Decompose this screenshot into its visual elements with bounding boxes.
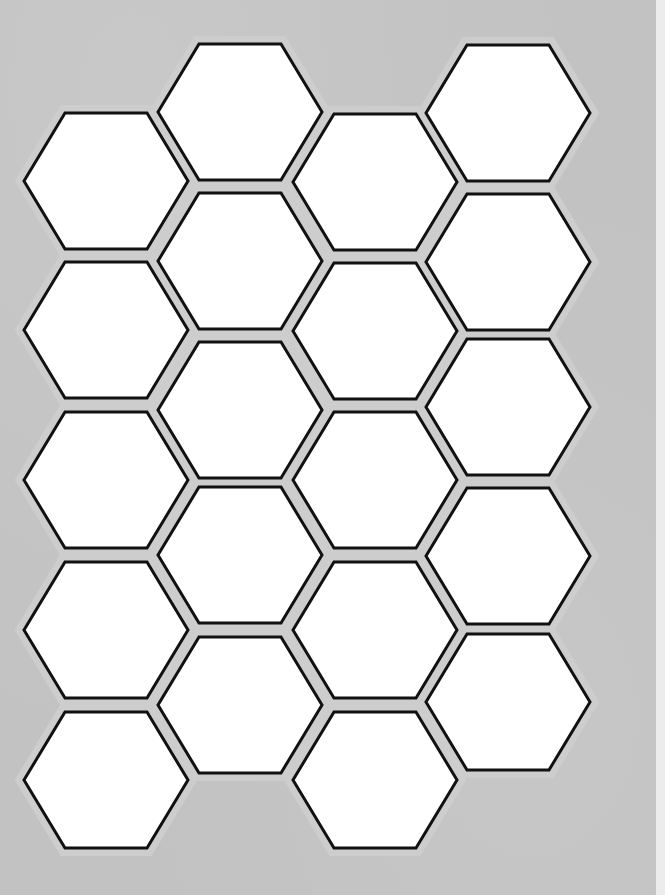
hexagon-template-sheet bbox=[0, 0, 665, 895]
hexagon-grid bbox=[0, 0, 656, 895]
page-edge-strip bbox=[656, 0, 665, 895]
